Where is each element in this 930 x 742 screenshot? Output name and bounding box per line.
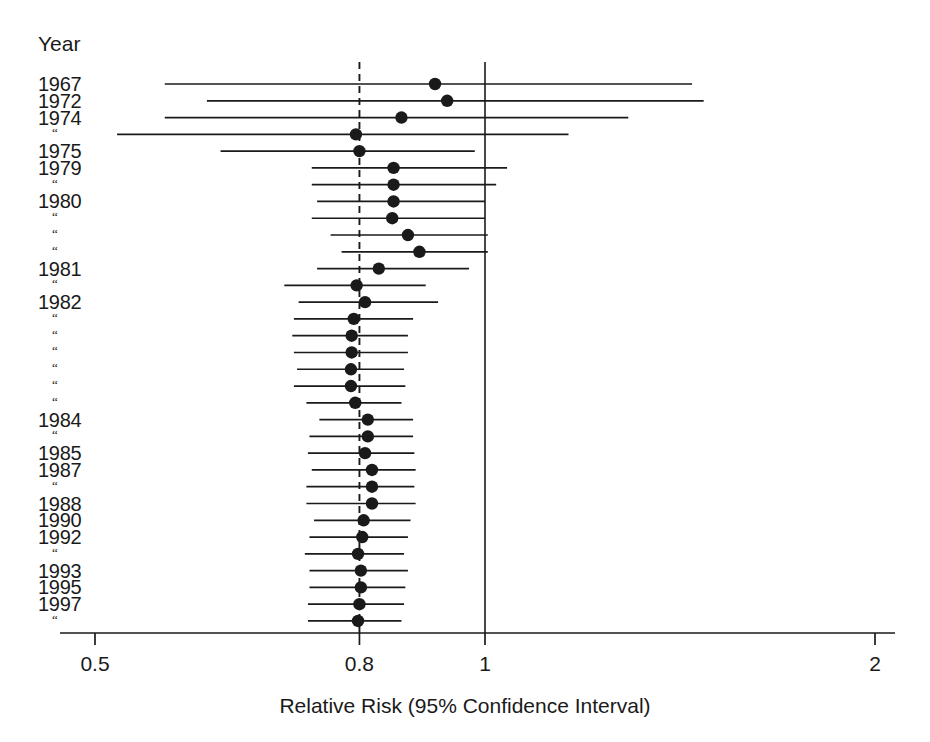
point-estimate-marker (352, 548, 364, 560)
forest-row (312, 464, 416, 476)
point-estimate-marker (395, 111, 407, 123)
year-label: 1979 (38, 158, 81, 178)
forest-row (297, 363, 404, 375)
forest-row (292, 330, 408, 342)
x-axis-tick-label: 0.5 (80, 653, 109, 674)
forest-row (305, 548, 404, 560)
x-axis-tick-label: 1 (479, 653, 491, 674)
year-label: 1992 (38, 527, 81, 547)
year-label: 1981 (38, 259, 81, 279)
forest-row (319, 413, 413, 425)
point-estimate-marker (373, 262, 385, 274)
point-estimate-marker (362, 413, 374, 425)
x-axis-title: Relative Risk (95% Confidence Interval) (0, 694, 930, 718)
point-estimate-marker (366, 481, 378, 493)
forest-row (314, 514, 410, 526)
point-estimate-marker (429, 78, 441, 90)
year-column-header: Year (38, 33, 80, 54)
point-estimate-marker (362, 430, 374, 442)
point-estimate-marker (345, 330, 357, 342)
x-axis-tick-label: 2 (869, 653, 881, 674)
forest-row (306, 397, 401, 409)
forest-row (165, 78, 692, 90)
point-estimate-marker (353, 145, 365, 157)
point-estimate-marker (345, 346, 357, 358)
point-estimate-marker (366, 464, 378, 476)
forest-row (312, 178, 496, 190)
point-estimate-marker (345, 363, 357, 375)
forest-row (294, 346, 408, 358)
year-label: 1997 (38, 594, 81, 614)
point-estimate-marker (348, 313, 360, 325)
forest-row (306, 497, 415, 509)
forest-row (308, 598, 404, 610)
forest-row (331, 229, 488, 241)
point-estimate-marker (356, 531, 368, 543)
forest-row (294, 313, 413, 325)
year-label-column: Year 196719721974“19751979“1980“““1981“1… (0, 0, 160, 742)
point-estimate-marker (387, 195, 399, 207)
forest-row (312, 212, 485, 224)
forest-row (309, 531, 407, 543)
forest-row (221, 145, 475, 157)
forest-row (308, 615, 402, 627)
forest-row (317, 195, 485, 207)
point-estimate-marker (355, 564, 367, 576)
year-label-ditto: “ (52, 610, 57, 630)
forest-row (309, 581, 405, 593)
forest-row (294, 380, 405, 392)
year-label: 1984 (38, 410, 81, 430)
forest-row (308, 447, 414, 459)
year-label: 1980 (38, 191, 81, 211)
forest-row (117, 128, 568, 140)
year-label: 1974 (38, 108, 81, 128)
forest-row (299, 296, 438, 308)
forest-row (317, 262, 469, 274)
year-label: 1982 (38, 292, 81, 312)
point-estimate-marker (352, 615, 364, 627)
point-estimate-marker (359, 296, 371, 308)
point-estimate-marker (441, 95, 453, 107)
forest-row (284, 279, 425, 291)
forest-row (342, 246, 488, 258)
forest-row (312, 162, 507, 174)
point-estimate-marker (413, 246, 425, 258)
point-estimate-marker (402, 229, 414, 241)
point-estimate-marker (353, 598, 365, 610)
point-estimate-marker (357, 514, 369, 526)
forest-row (165, 111, 629, 123)
point-estimate-marker (355, 581, 367, 593)
point-estimate-marker (349, 397, 361, 409)
point-estimate-marker (387, 162, 399, 174)
point-estimate-marker (387, 178, 399, 190)
forest-plot-figure: Year 196719721974“19751979“1980“““1981“1… (0, 0, 930, 742)
point-estimate-marker (359, 447, 371, 459)
forest-row (207, 95, 704, 107)
forest-row (309, 564, 407, 576)
point-estimate-marker (345, 380, 357, 392)
x-axis-tick-label: 0.8 (345, 653, 374, 674)
point-estimate-marker (386, 212, 398, 224)
point-estimate-marker (366, 497, 378, 509)
year-label: 1987 (38, 460, 81, 480)
forest-row (309, 430, 413, 442)
point-estimate-marker (350, 128, 362, 140)
point-estimate-marker (350, 279, 362, 291)
